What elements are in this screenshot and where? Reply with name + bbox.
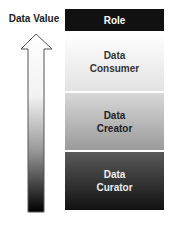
arrow-shape — [21, 34, 52, 212]
role-line2: Curator — [96, 182, 132, 193]
role-data-consumer: Data Consumer — [65, 33, 164, 91]
role-data-curator: Data Curator — [65, 152, 164, 210]
role-header: Role — [65, 9, 164, 31]
data-value-label: Data Value — [2, 13, 66, 24]
arrow-up-icon — [20, 33, 54, 215]
role-line1: Data — [104, 50, 126, 61]
role-line1: Data — [104, 169, 126, 180]
role-line1: Data — [104, 110, 126, 121]
role-line2: Consumer — [90, 63, 139, 74]
role-data-creator: Data Creator — [65, 93, 164, 150]
role-line2: Creator — [97, 123, 133, 134]
